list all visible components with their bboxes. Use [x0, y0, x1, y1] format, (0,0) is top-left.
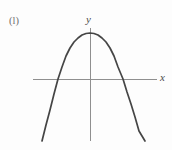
y-axis-label: y [86, 14, 91, 25]
part-label: (l) [9, 16, 19, 27]
x-axis-label: x [160, 72, 165, 83]
figure-container: (l) y x [0, 0, 172, 150]
parabola-curve [42, 33, 145, 141]
